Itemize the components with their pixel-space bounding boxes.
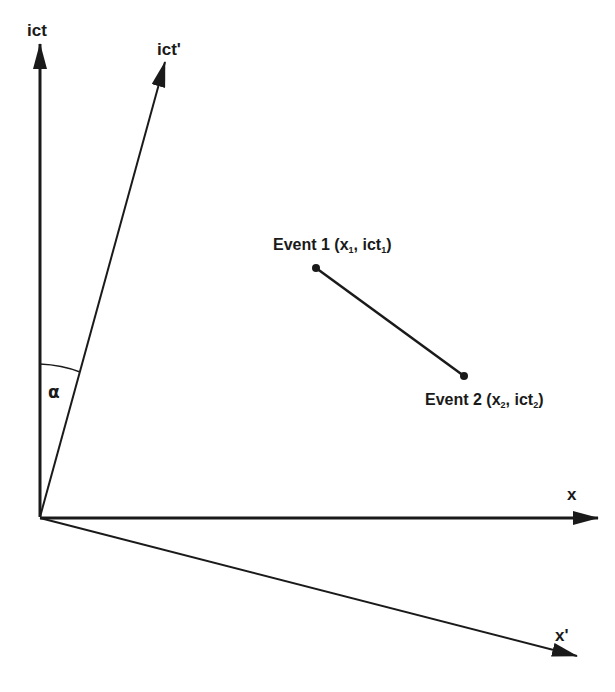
spacetime-diagram xyxy=(0,0,615,692)
event-2-point xyxy=(460,372,468,380)
x-prime-axis-label: x' xyxy=(555,626,569,646)
event-2-label: Event 2 (x2, ict2) xyxy=(425,391,544,410)
alpha-arc xyxy=(40,364,80,372)
alpha-label: α xyxy=(48,382,60,402)
ict-prime-axis-label: ict' xyxy=(157,40,181,60)
event-interval-line xyxy=(316,268,464,376)
x-prime-axis xyxy=(40,518,577,656)
event-1-point xyxy=(312,264,320,272)
ict-axis-label: ict xyxy=(27,21,47,41)
ict-prime-axis xyxy=(40,62,165,517)
event-1-label: Event 1 (x1, ict1) xyxy=(273,236,392,255)
x-axis-label: x xyxy=(567,485,576,505)
